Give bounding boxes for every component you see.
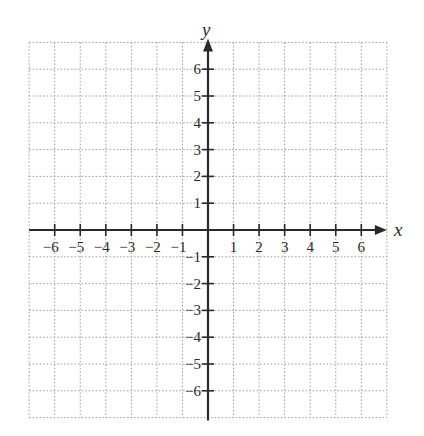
x-tick-labels: −6−5−4−3−2−1123456 bbox=[43, 239, 366, 255]
x-tick-label: −2 bbox=[145, 239, 161, 255]
y-tick-label: 2 bbox=[194, 168, 202, 184]
y-tick-label: 4 bbox=[194, 115, 202, 131]
y-tick-label: 3 bbox=[194, 142, 202, 158]
y-axis-label: y bbox=[200, 19, 211, 40]
x-tick-label: 6 bbox=[358, 239, 366, 255]
x-tick-label: −5 bbox=[68, 239, 84, 255]
x-tick-label: −1 bbox=[170, 239, 186, 255]
y-tick-label: 1 bbox=[194, 195, 202, 211]
x-tick-label: −6 bbox=[43, 239, 59, 255]
x-tick-label: 4 bbox=[306, 239, 314, 255]
y-tick-label: 5 bbox=[194, 88, 202, 104]
y-tick-label: −4 bbox=[185, 329, 201, 345]
y-tick-label: −6 bbox=[185, 383, 201, 399]
x-tick-label: 2 bbox=[255, 239, 263, 255]
y-tick-label: −1 bbox=[185, 249, 201, 265]
coordinate-plane: −6−5−4−3−2−1123456 −6−5−4−3−2−1123456 x … bbox=[0, 0, 424, 436]
x-tick-label: −3 bbox=[119, 239, 135, 255]
x-tick-label: 5 bbox=[332, 239, 340, 255]
y-tick-label: −5 bbox=[185, 356, 201, 372]
x-tick-label: −4 bbox=[94, 239, 110, 255]
x-tick-label: 1 bbox=[230, 239, 238, 255]
y-tick-label: −2 bbox=[185, 276, 201, 292]
y-axis-arrow-icon bbox=[203, 38, 213, 51]
y-tick-label: 6 bbox=[194, 61, 202, 77]
x-axis-label: x bbox=[393, 219, 403, 240]
x-axis-arrow-icon bbox=[375, 225, 387, 235]
y-tick-label: −3 bbox=[185, 302, 201, 318]
x-tick-label: 3 bbox=[281, 239, 289, 255]
